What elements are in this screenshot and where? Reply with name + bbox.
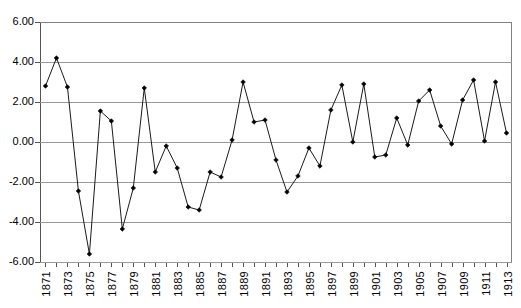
- x-axis-tick: [133, 263, 134, 267]
- x-axis-tick: [320, 263, 321, 267]
- x-axis-tick-label: 1873: [62, 271, 74, 297]
- x-axis-tick-label: 1879: [128, 271, 140, 297]
- x-axis-tick: [188, 263, 189, 267]
- x-axis-tick: [298, 263, 299, 267]
- x-axis-tick: [45, 263, 46, 267]
- y-axis-tick: [35, 102, 40, 103]
- data-point: [186, 205, 191, 210]
- data-point: [65, 85, 70, 90]
- data-point: [175, 166, 180, 171]
- data-point: [394, 116, 399, 121]
- x-axis-tick: [177, 263, 178, 267]
- data-point: [87, 252, 92, 257]
- x-axis-tick-label: 1913: [502, 271, 514, 297]
- x-axis-tick-label: 1897: [326, 271, 338, 297]
- x-axis-tick-label: 1895: [304, 271, 316, 297]
- data-point: [405, 143, 410, 148]
- data-point: [43, 84, 48, 89]
- gridline: [40, 262, 512, 263]
- x-axis-tick: [507, 263, 508, 267]
- x-axis-tick: [199, 263, 200, 267]
- x-axis-tick-label: 1875: [84, 271, 96, 297]
- data-point: [274, 158, 279, 163]
- data-point: [120, 227, 125, 232]
- data-point: [362, 82, 367, 87]
- x-axis-tick: [342, 263, 343, 267]
- x-axis-tick: [232, 263, 233, 267]
- data-point: [142, 86, 147, 91]
- x-axis-tick: [375, 263, 376, 267]
- x-axis-tick: [463, 263, 464, 267]
- x-axis-tick-label: 1891: [260, 271, 272, 297]
- data-point: [482, 139, 487, 144]
- x-axis-tick: [265, 263, 266, 267]
- x-axis-tick: [254, 263, 255, 267]
- data-point: [164, 144, 169, 149]
- data-point: [197, 208, 202, 213]
- data-series: [40, 22, 512, 262]
- data-point: [460, 98, 465, 103]
- y-axis-tick: [35, 22, 40, 23]
- x-axis-tick-label: 1899: [348, 271, 360, 297]
- x-axis-tick-label: 1893: [282, 271, 294, 297]
- y-axis-tick: [35, 62, 40, 63]
- data-point: [153, 170, 158, 175]
- y-axis-tick-label: 6.00: [0, 16, 34, 27]
- data-point: [263, 118, 268, 123]
- data-point: [471, 78, 476, 83]
- x-axis-tick-label: 1885: [194, 271, 206, 297]
- x-axis-tick: [67, 263, 68, 267]
- x-axis-tick: [144, 263, 145, 267]
- y-axis-tick-labels: 6.004.002.000.00-2.00-4.00-6.00: [0, 0, 34, 308]
- y-axis-tick-label: -4.00: [0, 216, 34, 227]
- data-point: [340, 83, 345, 88]
- x-axis-tick: [122, 263, 123, 267]
- data-point: [208, 170, 213, 175]
- y-axis-tick: [35, 222, 40, 223]
- data-point: [318, 164, 323, 169]
- x-axis-tick: [474, 263, 475, 267]
- x-axis-tick: [386, 263, 387, 267]
- data-point: [449, 142, 454, 147]
- x-axis-tick: [243, 263, 244, 267]
- x-axis-tick-label: 1911: [480, 271, 492, 296]
- x-axis-tick: [496, 263, 497, 267]
- data-point: [372, 155, 377, 160]
- data-point: [307, 146, 312, 151]
- y-axis-tick: [35, 182, 40, 183]
- x-axis-tick: [210, 263, 211, 267]
- x-axis-tick: [419, 263, 420, 267]
- x-axis-tick: [56, 263, 57, 267]
- x-axis-tick: [309, 263, 310, 267]
- x-axis-tick-label: 1909: [458, 271, 470, 297]
- x-axis-tick-label: 1907: [436, 271, 448, 297]
- x-axis-tick: [430, 263, 431, 267]
- line-chart: 6.004.002.000.00-2.00-4.00-6.00 18711873…: [0, 0, 521, 308]
- y-axis-tick-label: -2.00: [0, 176, 34, 187]
- x-axis-tick: [397, 263, 398, 267]
- x-axis-tick: [441, 263, 442, 267]
- x-axis-tick: [100, 263, 101, 267]
- data-point: [438, 124, 443, 129]
- y-axis-tick-label: -6.00: [0, 256, 34, 267]
- x-axis-tick: [353, 263, 354, 267]
- x-axis-tick: [485, 263, 486, 267]
- x-axis-tick: [364, 263, 365, 267]
- data-point: [493, 80, 498, 85]
- data-point: [329, 108, 334, 113]
- series-line: [45, 58, 506, 254]
- data-point: [252, 120, 257, 125]
- x-axis-tick: [155, 263, 156, 267]
- y-axis-tick-label: 4.00: [0, 56, 34, 67]
- x-axis-tick-label: 1903: [392, 271, 404, 297]
- x-axis-tick-label: 1883: [172, 271, 184, 297]
- x-axis-tick-label: 1871: [40, 271, 52, 297]
- data-point: [219, 175, 224, 180]
- data-point: [351, 140, 356, 145]
- x-axis-tick-label: 1901: [370, 271, 382, 297]
- x-axis-tick: [408, 263, 409, 267]
- y-axis-tick-label: 2.00: [0, 96, 34, 107]
- x-axis-tick-label: 1877: [106, 271, 118, 297]
- x-axis-tick: [452, 263, 453, 267]
- x-axis-tick: [276, 263, 277, 267]
